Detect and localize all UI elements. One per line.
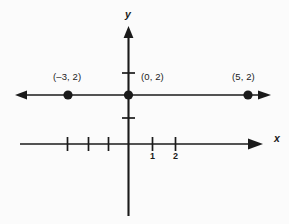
x-tick-label-1: 1 [150,152,155,161]
y-axis-arrowhead-icon [124,26,134,38]
plotted-point-origin [124,90,133,99]
plotted-point-left [63,90,72,99]
line-left-arrowhead-icon [15,91,27,100]
point-label-left: (–3, 2) [53,72,81,82]
point-label-right: (5, 2) [232,72,255,82]
point-label-origin: (0, 2) [141,72,164,82]
y-axis [122,26,135,216]
line-right-arrowhead-icon [258,91,271,100]
x-axis-arrowhead-icon [248,139,263,150]
graph-canvas [0,0,289,224]
y-axis-label: y [125,9,131,20]
coordinate-plane-figure: y x (–3, 2) (0, 2) (5, 2) 1 2 [0,0,289,224]
plotted-point-right [243,90,252,99]
x-tick-label-2: 2 [173,152,178,161]
x-axis [20,137,263,151]
line-y-equals-2 [15,91,271,100]
x-axis-label: x [274,133,280,144]
